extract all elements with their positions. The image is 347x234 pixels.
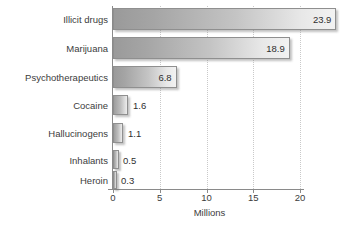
xtick-label-5: 5 [157, 192, 162, 203]
bar-value-cocaine: 1.6 [133, 100, 146, 111]
bar-marijuana: 18.9 [113, 37, 290, 59]
bar-chart-figure: Illicit drugs 23.9 Marijuana 18.9 Psycho… [0, 0, 347, 234]
bar-row: Heroin 0.3 [0, 171, 347, 189]
category-label-illicit-drugs: Illicit drugs [0, 14, 108, 25]
xtick-label-0: 0 [110, 192, 115, 203]
category-label-psychotherapeutics: Psychotherapeutics [0, 72, 108, 83]
bar-value-marijuana: 18.9 [266, 43, 285, 54]
category-label-cocaine: Cocaine [0, 100, 108, 111]
x-axis-title: Millions [194, 207, 226, 218]
bar-hallucinogens [113, 123, 123, 143]
bar-value-heroin: 0.3 [121, 175, 134, 186]
xtick-label-10: 10 [201, 192, 212, 203]
category-label-inhalants: Inhalants [0, 154, 108, 165]
x-axis-title-wrapper: Millions [0, 207, 347, 218]
bar-psychotherapeutics: 6.8 [113, 66, 177, 88]
category-label-marijuana: Marijuana [0, 43, 108, 54]
bar-value-hallucinogens: 1.1 [128, 128, 141, 139]
bar-value-inhalants: 0.5 [123, 154, 136, 165]
bar-row: Inhalants 0.5 [0, 150, 347, 169]
bar-row: Psychotherapeutics 6.8 [0, 66, 347, 88]
category-label-hallucinogens: Hallucinogens [0, 128, 108, 139]
bar-cocaine [113, 95, 128, 115]
bar-row: Cocaine 1.6 [0, 95, 347, 115]
bar-heroin [113, 171, 117, 189]
bar-value-psychotherapeutics: 6.8 [158, 72, 171, 83]
bar-illicit-drugs: 23.9 [113, 8, 336, 30]
bar-row: Hallucinogens 1.1 [0, 123, 347, 143]
bar-row: Marijuana 18.9 [0, 37, 347, 59]
xtick-label-20: 20 [295, 192, 306, 203]
bar-inhalants [113, 150, 119, 169]
category-label-heroin: Heroin [0, 175, 108, 186]
bar-row: Illicit drugs 23.9 [0, 8, 347, 30]
xtick-label-15: 15 [248, 192, 259, 203]
bar-value-illicit-drugs: 23.9 [313, 14, 332, 25]
